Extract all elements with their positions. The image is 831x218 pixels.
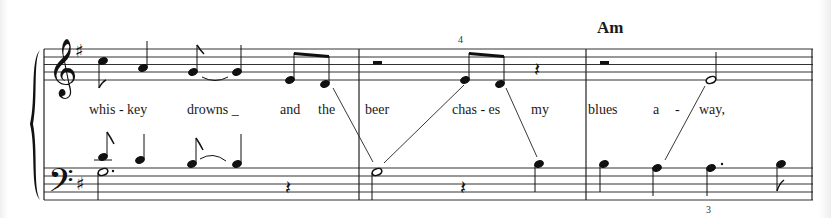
lyric-syllable: - xyxy=(675,102,680,118)
voice-leading-lines xyxy=(333,85,705,163)
sharp-icon: ♯ xyxy=(75,40,84,61)
quarter-rest-icon: 𝄽 xyxy=(534,57,540,81)
measure-1-bass: 𝄽 xyxy=(94,132,291,200)
fingering-number: 3 xyxy=(706,204,711,215)
lyric-syllable: my xyxy=(531,102,549,118)
brace-icon xyxy=(30,50,40,200)
bass-staff xyxy=(44,168,813,200)
fingering-number: 4 xyxy=(458,34,463,45)
lyric-syllable: whis - key xyxy=(89,102,147,118)
quarter-rest-icon: 𝄽 xyxy=(460,175,466,199)
half-rest-icon xyxy=(373,61,382,65)
bass-clef-icon: 𝄢 xyxy=(48,161,74,207)
lyric-syllable: a xyxy=(653,102,659,118)
treble-staff xyxy=(44,49,813,80)
sharp-icon: ♯ xyxy=(76,173,85,194)
lyric-syllable: chas - es xyxy=(452,102,500,118)
lyric-syllable: the xyxy=(318,102,335,118)
treble-clef-icon: 𝄞 xyxy=(48,38,78,99)
quarter-rest-icon: 𝄽 xyxy=(285,175,291,199)
measure-3-bass xyxy=(599,159,787,196)
lyric-syllable: and xyxy=(280,102,300,118)
page-edge-right xyxy=(819,0,831,218)
lyric-syllable: drowns _ xyxy=(187,102,239,118)
lyric-syllable: way, xyxy=(699,102,725,118)
measure-2-bass: 𝄽 xyxy=(371,159,544,200)
chord-symbol: Am xyxy=(597,18,623,38)
lyric-syllable: blues xyxy=(588,102,618,118)
lyric-syllable: beer xyxy=(365,102,389,118)
system-bracket xyxy=(30,49,44,200)
half-rest-icon xyxy=(600,61,609,65)
